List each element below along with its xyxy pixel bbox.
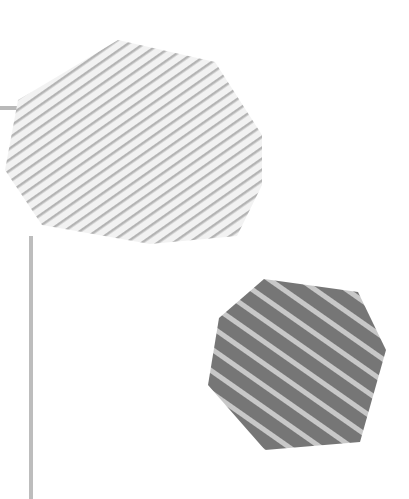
shapes-canvas (0, 0, 409, 499)
dark-striped-heptagon (208, 279, 386, 450)
light-striped-octagon (5, 40, 262, 244)
